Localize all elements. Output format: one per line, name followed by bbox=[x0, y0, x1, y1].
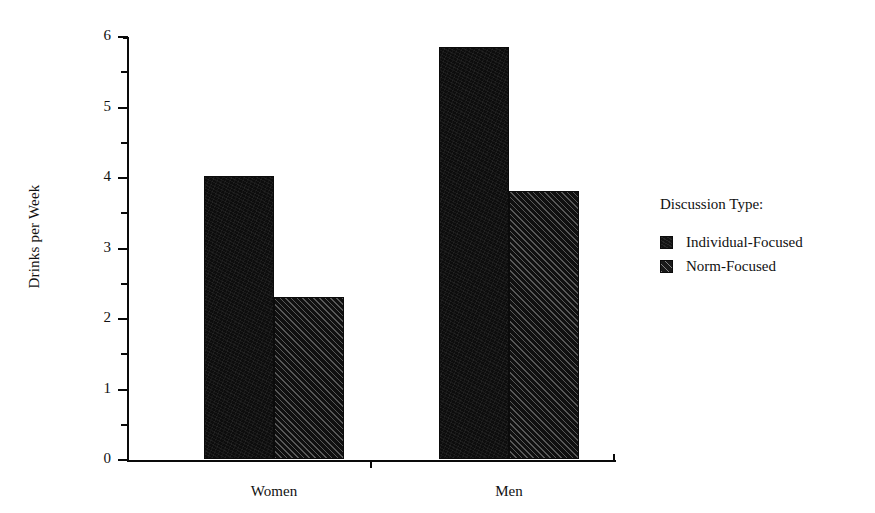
y-tick-major: 2 bbox=[118, 318, 128, 320]
plot-area: 0123456 WomenMen bbox=[127, 37, 615, 461]
y-tick-label: 6 bbox=[104, 25, 112, 45]
y-tick-major: 5 bbox=[118, 107, 128, 109]
legend-item: Individual-Focused bbox=[660, 231, 875, 253]
y-tick-major: 0 bbox=[118, 459, 128, 461]
y-tick-major: 4 bbox=[118, 177, 128, 179]
hatched-swatch-icon bbox=[660, 260, 673, 273]
solid-swatch-icon bbox=[660, 236, 673, 249]
x-category-label: Men bbox=[409, 483, 609, 500]
y-tick-label: 1 bbox=[104, 378, 112, 398]
y-tick-major: 3 bbox=[118, 248, 128, 250]
legend: Discussion Type: Individual-FocusedNorm-… bbox=[660, 196, 875, 279]
legend-entries: Individual-FocusedNorm-Focused bbox=[660, 231, 875, 277]
y-tick-major: 1 bbox=[118, 389, 128, 391]
y-tick-minor bbox=[121, 424, 128, 426]
y-tick-minor bbox=[121, 353, 128, 355]
y-axis-label: Drinks per Week bbox=[26, 157, 43, 317]
bar bbox=[274, 297, 344, 459]
bar bbox=[509, 191, 579, 459]
y-tick-major: 6 bbox=[118, 36, 128, 38]
y-tick-label: 2 bbox=[104, 307, 112, 327]
y-tick-minor bbox=[121, 142, 128, 144]
x-axis-end-tick bbox=[613, 454, 615, 461]
x-category-label: Women bbox=[174, 483, 374, 500]
legend-item: Norm-Focused bbox=[660, 255, 875, 277]
bar-chart-figure: Drinks per Week 0123456 WomenMen Discuss… bbox=[0, 0, 875, 513]
y-tick-minor bbox=[121, 283, 128, 285]
legend-item-label: Norm-Focused bbox=[686, 258, 776, 275]
y-axis-line bbox=[127, 37, 129, 462]
legend-title: Discussion Type: bbox=[660, 196, 875, 213]
y-tick-label: 4 bbox=[104, 166, 112, 186]
bar bbox=[204, 176, 274, 459]
y-tick-label: 5 bbox=[104, 96, 112, 116]
y-tick-minor bbox=[121, 212, 128, 214]
y-tick-minor bbox=[121, 71, 128, 73]
bar bbox=[439, 47, 509, 459]
legend-item-label: Individual-Focused bbox=[686, 234, 803, 251]
x-axis-center-tick bbox=[370, 461, 372, 468]
y-tick-label: 3 bbox=[104, 237, 112, 257]
y-tick-label: 0 bbox=[104, 448, 112, 468]
